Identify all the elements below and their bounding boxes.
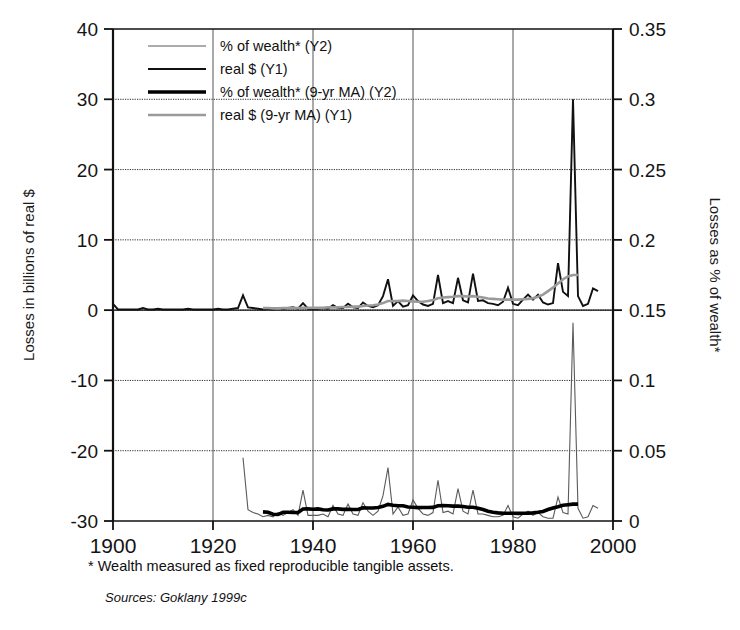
tick-label-y-right: 0.1 [629, 370, 655, 391]
tick-label-x: 1980 [490, 534, 537, 557]
legend-label: real $ (9-yr MA) (Y1) [220, 107, 352, 123]
tick-label-y-left: -10 [71, 370, 98, 391]
tick-label-x: 1960 [390, 534, 437, 557]
tick-label-y-left: 0 [87, 300, 98, 321]
tick-label-x: 1920 [190, 534, 237, 557]
tick-label-y-right: 0.35 [629, 19, 666, 40]
legend-label: % of wealth* (9-yr MA) (Y2) [220, 84, 396, 100]
legend-label: real $ (Y1) [220, 61, 288, 77]
tick-label-y-left: -30 [71, 511, 98, 532]
tick-label-x: 1900 [90, 534, 137, 557]
tick-label-y-right: 0.2 [629, 230, 655, 251]
tick-label-y-left: 30 [77, 89, 98, 110]
tick-label-x: 2000 [590, 534, 637, 557]
tick-label-y-right: 0.15 [629, 300, 666, 321]
tick-label-y-left: 10 [77, 230, 98, 251]
tick-label-y-right: 0 [629, 511, 640, 532]
legend-label: % of wealth* (Y2) [220, 38, 332, 54]
tick-label-y-right: 0.25 [629, 160, 666, 181]
tick-label-y-left: 40 [77, 19, 98, 40]
tick-label-y-right: 0.05 [629, 441, 666, 462]
wealth-footnote: * Wealth measured as fixed reproducible … [88, 558, 454, 574]
y-axis-left-title: Losses in billions of real $ [20, 188, 37, 360]
tick-label-y-left: 20 [77, 160, 98, 181]
tick-label-y-right: 0.3 [629, 89, 655, 110]
tick-label-x: 1940 [290, 534, 337, 557]
losses-chart: -30-20-1001020304000.050.10.150.20.250.3… [0, 0, 740, 630]
sources-note: Sources: Goklany 1999c [105, 590, 247, 605]
y-axis-right-title: Losses as % of wealth* [707, 197, 724, 352]
tick-label-y-left: -20 [71, 441, 98, 462]
